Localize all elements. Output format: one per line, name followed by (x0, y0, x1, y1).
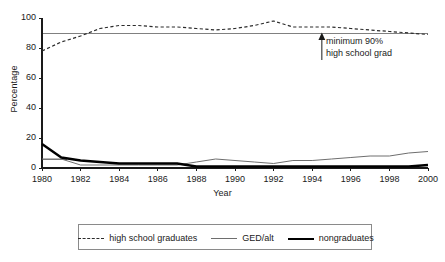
legend-swatch-line (211, 238, 237, 239)
arrow-head (318, 33, 325, 41)
y-tick-label-0: 0 (10, 162, 36, 172)
x-axis-title: Year (0, 188, 445, 198)
legend-entry-nongraduates[interactable]: nongraduates (288, 233, 374, 243)
y-tick-label-60: 60 (10, 72, 36, 82)
x-tick-label-2000: 2000 (408, 174, 445, 184)
x-tick-label-1988: 1988 (176, 174, 216, 184)
x-tick-label-1992: 1992 (254, 174, 294, 184)
minimum-90-annotation: minimum 90% high school grad (326, 36, 392, 59)
x-tick-label-1990: 1990 (215, 174, 255, 184)
legend-label: high school graduates (109, 233, 197, 243)
legend-entries: high school graduatesGED/altnongraduates (79, 225, 373, 251)
legend-swatch-icon (288, 234, 314, 242)
annotation-arrow (318, 33, 325, 61)
x-tick-label-1996: 1996 (331, 174, 371, 184)
series-line-nongraduates (42, 144, 428, 167)
x-tick-label-1986: 1986 (138, 174, 178, 184)
y-tick-label-80: 80 (10, 42, 36, 52)
legend-swatch-icon (211, 234, 237, 242)
y-tick-label-40: 40 (10, 102, 36, 112)
annotation-line-2: high school grad (326, 48, 392, 60)
legend-swatch-line (288, 238, 314, 240)
x-tick-label-1984: 1984 (99, 174, 139, 184)
y-tick-label-100: 100 (10, 12, 36, 22)
x-tick-label-1998: 1998 (369, 174, 409, 184)
legend-swatch-icon (78, 234, 104, 242)
x-tick-label-1982: 1982 (61, 174, 101, 184)
legend-label: GED/alt (242, 233, 274, 243)
legend-entry-ged-alt[interactable]: GED/alt (211, 233, 274, 243)
legend-swatch-line (78, 238, 104, 239)
annotation-line-1: minimum 90% (326, 36, 392, 48)
y-tick-label-20: 20 (10, 132, 36, 142)
x-tick-label-1994: 1994 (292, 174, 332, 184)
legend-label: nongraduates (319, 233, 374, 243)
x-tick-label-1980: 1980 (22, 174, 62, 184)
y-axis-title: Percentage (9, 49, 19, 129)
legend-entry-high-school-graduates[interactable]: high school graduates (78, 233, 197, 243)
chart-legend: high school graduatesGED/altnongraduates (78, 224, 372, 250)
chart-figure: Percentage Year 020406080100 19801982198… (0, 0, 445, 262)
